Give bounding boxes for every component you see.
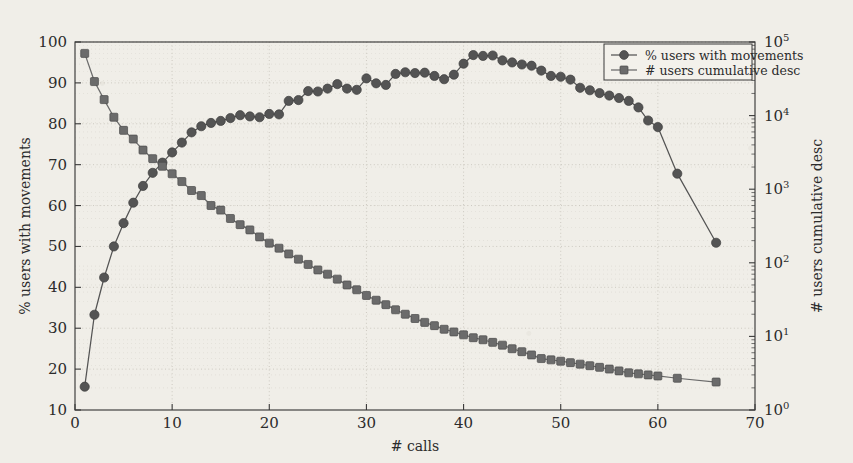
data-point[interactable] (479, 336, 487, 344)
data-point[interactable] (644, 116, 653, 125)
data-point[interactable] (80, 382, 89, 391)
data-point[interactable] (100, 96, 108, 104)
data-point[interactable] (178, 178, 186, 186)
data-point[interactable] (401, 68, 410, 77)
data-point[interactable] (197, 122, 206, 131)
data-point[interactable] (391, 69, 400, 78)
data-point[interactable] (634, 103, 643, 112)
data-point[interactable] (129, 135, 137, 143)
data-point[interactable] (353, 286, 361, 294)
data-point[interactable] (489, 338, 497, 346)
data-point[interactable] (382, 301, 390, 309)
data-point[interactable] (110, 113, 118, 121)
data-point[interactable] (314, 266, 322, 274)
data-point[interactable] (255, 113, 264, 122)
data-point[interactable] (673, 374, 681, 382)
data-point[interactable] (537, 355, 545, 363)
data-point[interactable] (634, 370, 642, 378)
data-point[interactable] (109, 242, 118, 251)
data-point[interactable] (265, 239, 273, 247)
data-point[interactable] (245, 112, 254, 121)
data-point[interactable] (421, 318, 429, 326)
data-point[interactable] (216, 116, 225, 125)
data-point[interactable] (294, 255, 302, 263)
data-point[interactable] (557, 357, 565, 365)
data-point[interactable] (527, 61, 536, 70)
data-point[interactable] (197, 192, 205, 200)
data-point[interactable] (168, 170, 176, 178)
data-point[interactable] (566, 75, 575, 84)
data-point[interactable] (576, 360, 584, 368)
data-point[interactable] (508, 345, 516, 353)
data-point[interactable] (595, 89, 604, 98)
data-point[interactable] (420, 68, 429, 77)
data-point[interactable] (644, 371, 652, 379)
data-point[interactable] (90, 78, 98, 86)
data-point[interactable] (138, 181, 147, 190)
data-point[interactable] (498, 56, 507, 65)
data-point[interactable] (294, 95, 303, 104)
data-point[interactable] (285, 250, 293, 258)
data-point[interactable] (372, 79, 381, 88)
data-point[interactable] (177, 138, 186, 147)
data-point[interactable] (469, 50, 478, 59)
data-point[interactable] (381, 80, 390, 89)
data-point[interactable] (236, 111, 245, 120)
data-point[interactable] (226, 113, 235, 122)
data-point[interactable] (712, 238, 721, 247)
data-point[interactable] (392, 306, 400, 314)
data-point[interactable] (304, 86, 313, 95)
data-point[interactable] (139, 146, 147, 154)
data-point[interactable] (342, 84, 351, 93)
data-point[interactable] (100, 273, 109, 282)
data-point[interactable] (605, 91, 614, 100)
data-point[interactable] (653, 122, 662, 131)
data-point[interactable] (556, 72, 565, 81)
data-point[interactable] (410, 68, 419, 77)
data-point[interactable] (256, 233, 264, 241)
data-point[interactable] (411, 315, 419, 323)
data-point[interactable] (158, 162, 166, 170)
data-point[interactable] (90, 310, 99, 319)
data-point[interactable] (246, 226, 254, 234)
data-point[interactable] (401, 310, 409, 318)
data-point[interactable] (362, 291, 370, 299)
data-point[interactable] (478, 51, 487, 60)
data-point[interactable] (537, 66, 546, 75)
data-point[interactable] (528, 351, 536, 359)
data-point[interactable] (440, 75, 449, 84)
data-point[interactable] (313, 87, 322, 96)
data-point[interactable] (625, 369, 633, 377)
data-point[interactable] (226, 214, 234, 222)
data-point[interactable] (120, 126, 128, 134)
data-point[interactable] (517, 60, 526, 69)
chart-legend[interactable]: % users with movements# users cumulative… (604, 44, 803, 80)
data-point[interactable] (207, 202, 215, 210)
data-point[interactable] (576, 83, 585, 92)
data-point[interactable] (614, 93, 623, 102)
data-point[interactable] (333, 275, 341, 283)
data-point[interactable] (274, 110, 283, 119)
data-point[interactable] (168, 148, 177, 157)
data-point[interactable] (323, 84, 332, 93)
data-point[interactable] (284, 96, 293, 105)
data-point[interactable] (518, 348, 526, 356)
data-point[interactable] (206, 118, 215, 127)
data-point[interactable] (275, 244, 283, 252)
data-point[interactable] (469, 334, 477, 342)
data-point[interactable] (430, 71, 439, 80)
data-point[interactable] (586, 362, 594, 370)
data-point[interactable] (498, 341, 506, 349)
data-point[interactable] (460, 331, 468, 339)
data-point[interactable] (585, 86, 594, 95)
data-point[interactable] (596, 363, 604, 371)
data-point[interactable] (459, 59, 468, 68)
data-point[interactable] (149, 155, 157, 163)
data-point[interactable] (148, 168, 157, 177)
data-point[interactable] (624, 96, 633, 105)
data-point[interactable] (265, 109, 274, 118)
data-point[interactable] (712, 378, 720, 386)
data-point[interactable] (615, 367, 623, 375)
data-point[interactable] (333, 80, 342, 89)
data-point[interactable] (217, 206, 225, 214)
